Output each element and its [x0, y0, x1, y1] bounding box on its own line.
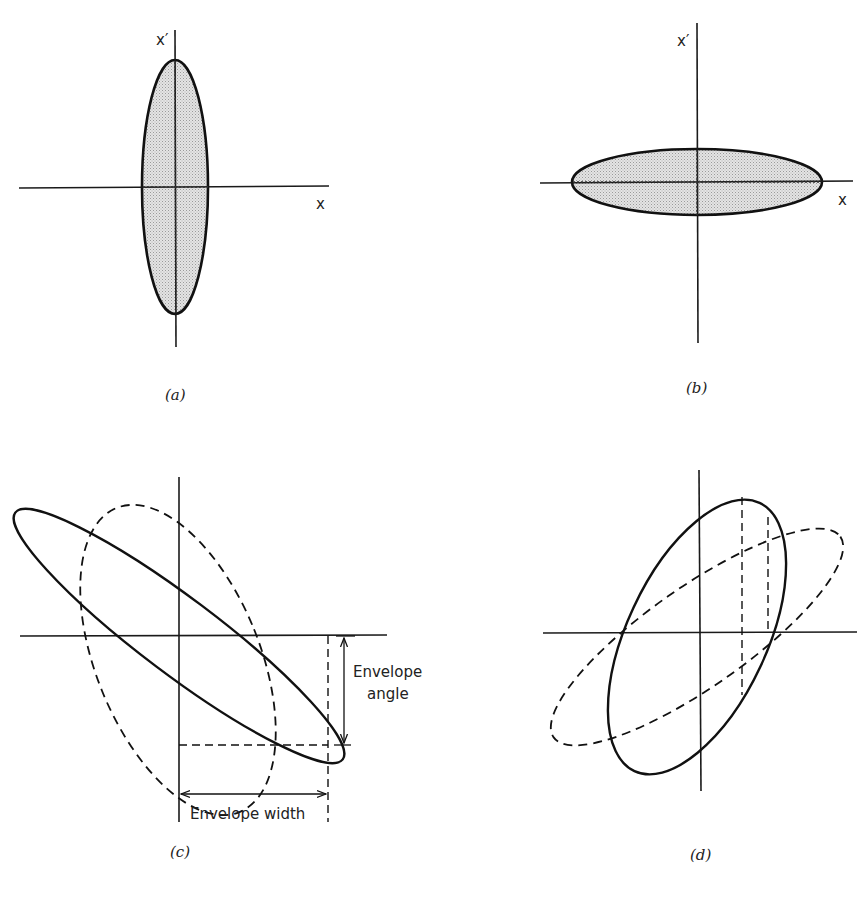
axis-label-x-prime: x′: [156, 31, 169, 49]
caption-b: (b): [686, 379, 707, 397]
panel-a: x′ x (a): [19, 30, 329, 404]
axis-label-x: x: [838, 191, 847, 209]
envelope-angle-label-line2: angle: [367, 685, 409, 703]
axis-label-x: x: [316, 195, 325, 213]
horizontal-axis: [20, 635, 387, 636]
caption-c: (c): [170, 843, 190, 861]
envelope-angle-label-line1: Envelope: [353, 663, 422, 681]
panel-c: Envelope angle Envelope width (c): [0, 477, 422, 861]
dashed-ellipse: [525, 496, 868, 779]
axis-label-x-prime: x′: [677, 32, 690, 50]
caption-d: (d): [690, 846, 711, 864]
panel-d: (d): [525, 470, 868, 864]
envelope-width-label: Envelope width: [190, 805, 305, 823]
panel-b: x′ x (b): [540, 23, 853, 397]
phase-space-ellipse-figure: x′ x (a) x′ x (b) Envelope angle Envelop…: [0, 0, 868, 897]
horizontal-axis: [543, 632, 857, 633]
solid-ellipse: [571, 473, 823, 800]
horizontal-axis: [19, 186, 329, 188]
caption-a: (a): [165, 386, 186, 404]
dashed-ellipse: [41, 477, 316, 843]
